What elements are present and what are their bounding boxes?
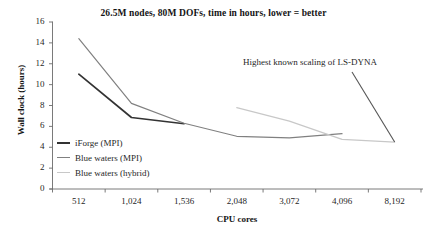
legend-swatch-icon [57,157,70,158]
y-tick-label: 14 [23,37,45,47]
legend-item-1[interactable]: Blue waters (MPI) [57,150,149,165]
legend-swatch-icon [57,172,70,173]
legend-label: Blue waters (MPI) [75,153,142,163]
annotation-leader-line [352,72,395,142]
y-tick-label: 12 [23,58,45,68]
series-line-1 [79,39,342,138]
y-tick-label: 8 [23,100,45,110]
series-group [79,39,395,142]
x-tick-label: 1,536 [161,196,207,206]
y-tick-label: 6 [23,120,45,130]
x-tick-label: 1,024 [108,196,154,206]
x-tick-label: 512 [56,196,102,206]
x-tick-label: 3,072 [266,196,312,206]
leader-line [352,72,395,142]
legend-item-2[interactable]: Blue waters (hybrid) [57,165,149,180]
legend-label: Blue waters (hybrid) [75,168,149,178]
legend-label: iForge (MPI) [75,138,123,148]
legend-item-0[interactable]: iForge (MPI) [57,135,149,150]
annotation-label: Highest known scaling of LS-DYNA [243,57,377,67]
series-line-0 [79,74,184,124]
x-tick-label: 4,096 [319,196,365,206]
x-tick-label: 2,048 [214,196,260,206]
y-tick-label: 16 [23,16,45,26]
y-tick-label: 0 [23,183,45,193]
x-tick-label: 8,192 [372,196,418,206]
y-tick-label: 2 [23,162,45,172]
chart-figure: 26.5M nodes, 80M DOFs, time in hours, lo… [0,0,427,234]
y-tick-label: 4 [23,141,45,151]
x-axis-title: CPU cores [52,214,422,224]
chart-legend: iForge (MPI)Blue waters (MPI)Blue waters… [57,135,149,180]
legend-swatch-icon [57,142,70,144]
y-tick-label: 10 [23,79,45,89]
